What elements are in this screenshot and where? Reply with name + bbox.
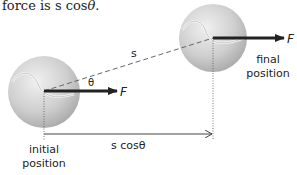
displacement-label: s bbox=[131, 47, 137, 60]
final-position-label-2: position bbox=[246, 67, 290, 80]
work-diagram: s θ F F s cosθ initial position final po… bbox=[0, 0, 297, 175]
force-label-final: F bbox=[287, 32, 295, 46]
initial-position-label-2: position bbox=[22, 157, 66, 170]
projection-label: s cosθ bbox=[111, 139, 146, 152]
force-label-initial: F bbox=[120, 85, 128, 99]
final-position-label-1: final bbox=[256, 53, 280, 66]
initial-position-label-1: initial bbox=[29, 143, 59, 156]
displacement-line bbox=[44, 38, 213, 91]
angle-label: θ bbox=[88, 77, 94, 88]
